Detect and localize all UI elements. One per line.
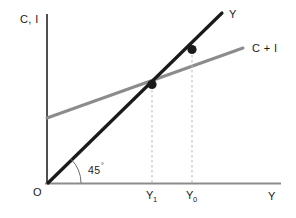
y-axis-label: C, I <box>20 13 39 25</box>
keynesian-cross-diagram: C, I Y O Y C + I 45 ° Y 1 Y 0 <box>0 0 296 218</box>
x-tick-y0-subscript: 0 <box>193 195 198 204</box>
equilibrium-point-marker <box>147 80 156 89</box>
diagram-canvas: C, I Y O Y C + I 45 ° Y 1 Y 0 <box>0 0 296 218</box>
x-tick-y1-subscript: 1 <box>153 195 158 204</box>
angle-value-label: 45 <box>88 164 100 176</box>
output-point-marker <box>187 45 196 54</box>
origin-label: O <box>33 186 42 198</box>
x-axis-label: Y <box>268 190 276 202</box>
income-curve-label: Y <box>229 8 237 20</box>
degree-symbol-icon: ° <box>101 162 104 169</box>
expenditure-curve-label: C + I <box>252 42 278 54</box>
chart-background <box>0 0 296 218</box>
